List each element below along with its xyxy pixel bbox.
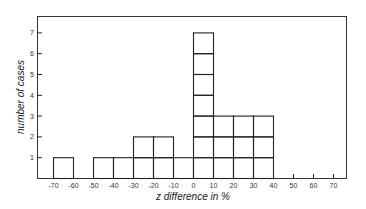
x-tick-label: -70	[48, 182, 58, 189]
histogram-box	[114, 158, 134, 179]
histogram-box	[214, 137, 234, 158]
histogram-box	[194, 116, 214, 137]
y-tick-label: 7	[30, 29, 34, 36]
histogram-box	[254, 137, 274, 158]
y-tick-label: 2	[30, 133, 34, 140]
y-tick-label: 6	[30, 50, 34, 57]
histogram-box	[254, 116, 274, 137]
x-tick-label: 0	[192, 182, 196, 189]
histogram-box	[134, 137, 154, 158]
x-tick-label: 10	[210, 182, 218, 189]
y-tick-label: 3	[30, 113, 34, 120]
histogram-box	[194, 137, 214, 158]
histogram-box	[194, 54, 214, 75]
histogram-box	[194, 95, 214, 116]
x-tick-label: 70	[330, 182, 338, 189]
x-tick-label: -20	[148, 182, 158, 189]
plot-frame	[38, 17, 347, 179]
y-axis: 1234567	[30, 29, 42, 161]
y-tick-label: 1	[30, 154, 34, 161]
histogram-box	[254, 158, 274, 179]
histogram-box	[234, 158, 254, 179]
x-tick-label: -30	[128, 182, 138, 189]
y-tick-label: 5	[30, 71, 34, 78]
x-tick-label: -10	[168, 182, 178, 189]
histogram-box	[134, 158, 154, 179]
histogram-box	[194, 33, 214, 54]
x-tick-label: -50	[88, 182, 98, 189]
histogram-box	[154, 137, 174, 158]
histogram-box	[154, 158, 174, 179]
histogram-chart: 1234567 -70-60-50-40-30-20-1001020304050…	[0, 0, 366, 209]
histogram-box	[214, 116, 234, 137]
x-tick-label: -40	[108, 182, 118, 189]
x-axis-title: z difference in %	[155, 191, 230, 202]
histogram-box	[234, 137, 254, 158]
x-tick-label: 40	[270, 182, 278, 189]
x-tick-label: 60	[310, 182, 318, 189]
x-tick-label: 20	[230, 182, 238, 189]
histogram-box	[194, 75, 214, 96]
histogram-box	[54, 158, 74, 179]
x-tick-label: 50	[290, 182, 298, 189]
x-tick-label: 30	[250, 182, 258, 189]
histogram-box	[214, 158, 234, 179]
histogram-box	[194, 158, 214, 179]
histogram-box	[94, 158, 114, 179]
histogram-box	[234, 116, 254, 137]
histogram-box	[174, 158, 194, 179]
y-axis-title: number of cases	[15, 60, 26, 134]
histogram-bars	[54, 33, 274, 179]
y-tick-label: 4	[30, 92, 34, 99]
x-tick-label: -60	[68, 182, 78, 189]
